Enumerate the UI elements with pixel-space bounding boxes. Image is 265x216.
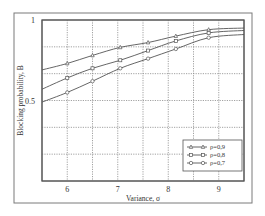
- circle-marker: [91, 79, 94, 82]
- square-marker: [201, 153, 204, 156]
- x-tick-label: 8: [166, 185, 170, 194]
- legend: ρ=0,9ρ=0,8ρ=0,7: [183, 140, 242, 171]
- square-marker: [147, 49, 150, 52]
- circle-marker: [207, 36, 210, 39]
- x-axis-label: Variance, σ: [126, 194, 160, 203]
- square-marker: [66, 76, 69, 79]
- x-tick-label: 7: [116, 185, 120, 194]
- square-marker: [207, 31, 210, 34]
- square-marker: [174, 39, 177, 42]
- circle-marker: [174, 47, 177, 50]
- square-marker: [91, 67, 94, 70]
- circle-marker: [66, 91, 69, 94]
- x-tick-label: 6: [65, 185, 69, 194]
- x-tick-label: 9: [217, 185, 221, 194]
- square-marker: [189, 153, 192, 156]
- circle-marker: [201, 161, 204, 164]
- legend-label: ρ=0,8: [210, 151, 225, 158]
- y-tick-label: 0.5: [25, 97, 35, 106]
- y-tick-label: 1: [31, 16, 35, 25]
- circle-marker: [119, 67, 122, 70]
- blocking-probability-chart: 67890.51 Variance, σ Blocking probabilit…: [0, 0, 265, 216]
- legend-label: ρ=0,7: [210, 159, 226, 166]
- y-axis-label: Blocking probability, B: [16, 65, 25, 136]
- square-marker: [119, 59, 122, 62]
- legend-label: ρ=0,9: [210, 143, 225, 150]
- circle-marker: [146, 57, 149, 60]
- circle-marker: [189, 161, 192, 164]
